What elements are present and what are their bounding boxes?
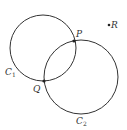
label-c1: C1: [5, 67, 16, 78]
circles-diagram: P Q R C1 C2: [0, 0, 127, 130]
point-r: [108, 24, 111, 27]
label-c2-subscript: 2: [83, 120, 87, 127]
label-q: Q: [33, 84, 41, 94]
circle-c1: [10, 15, 76, 81]
label-c2: C2: [76, 116, 87, 127]
circle-c2: [44, 40, 118, 114]
label-c1-subscript: 1: [12, 71, 16, 78]
label-r: R: [110, 20, 118, 30]
point-q: [42, 79, 45, 82]
label-p: P: [75, 29, 83, 39]
point-p: [72, 39, 75, 42]
